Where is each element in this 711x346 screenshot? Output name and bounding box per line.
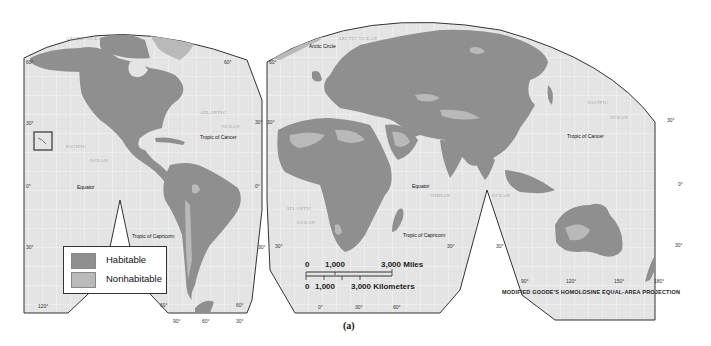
deg-30s-west: 30°	[26, 244, 34, 250]
label-atlantic-ocean-south-1: ATLANTIC	[286, 206, 312, 211]
deg-lon-120e: 120°	[566, 278, 576, 284]
scale-miles-zero: 0	[305, 260, 309, 269]
label-pacific-ocean-west-1: PACIFIC	[66, 144, 86, 149]
label-equator-west: Equator	[77, 184, 95, 190]
label-tropic-cancer-west: Tropic of Cancer	[200, 134, 237, 140]
label-indian-ocean-1: INDIAN	[431, 193, 450, 198]
label-tropic-capricorn-east: Tropic of Capricorn	[403, 232, 445, 238]
scale-km-mid: 1,000	[315, 282, 335, 291]
deg-lon-120w: 120°	[38, 303, 48, 309]
deg-30s-africa-right: 30°	[447, 243, 455, 249]
deg-lon-0: 0°	[318, 304, 323, 310]
deg-60s-west: 60°	[160, 302, 168, 308]
deg-0-west: 0°	[26, 183, 31, 189]
label-atlantic-ocean-south-2: OCEAN	[297, 220, 315, 225]
deg-lon-30w: 30°	[236, 318, 244, 324]
label-atlantic-ocean-north-2: OCEAN	[222, 124, 240, 129]
deg-60n-west-right: 60°	[224, 59, 232, 65]
deg-lon-150e: 150°	[614, 278, 624, 284]
scale-miles-mid: 1,000	[325, 260, 345, 269]
deg-lon-60e: 60°	[393, 304, 401, 310]
label-pacific-ocean-east-2: OCEAN	[610, 115, 628, 120]
deg-lon-60w: 60°	[202, 318, 210, 324]
deg-30s-australia-left: 30°	[496, 243, 504, 249]
deg-30n-west-right: 30°	[255, 119, 263, 125]
deg-0-mid: 0°	[255, 183, 260, 189]
label-arctic-ocean-west: ARCTIC OCEAN	[66, 36, 105, 41]
deg-lon-90w: 90°	[173, 318, 181, 324]
scale-km-zero: 0	[305, 282, 309, 291]
deg-60s-east: 60°	[236, 302, 244, 308]
deg-0-east: 0°	[678, 181, 683, 187]
label-pacific-ocean-west-2: OCEAN	[90, 158, 108, 163]
label-atlantic-ocean-north-1: ATLANTIC	[200, 110, 226, 115]
deg-30n-west: 30°	[26, 120, 34, 126]
legend: Habitable Nonhabitable	[63, 246, 167, 294]
east-lobe	[267, 22, 657, 320]
label-tropic-cancer-east: Tropic of Cancer	[567, 133, 604, 139]
legend-label-habitable: Habitable	[106, 254, 146, 265]
label-equator-east: Equator	[412, 183, 430, 189]
deg-60n-west: 60°	[26, 59, 34, 65]
projection-label: MODIFIED GOODE'S HOMOLOSINE EQUAL-AREA P…	[502, 289, 680, 295]
deg-lon-30e: 30°	[355, 304, 363, 310]
deg-30n-east: 30°	[667, 117, 675, 123]
legend-label-nonhabitable: Nonhabitable	[106, 273, 162, 284]
deg-lon-180: 180°	[654, 278, 664, 284]
deg-30s-east-left: 30°	[275, 243, 283, 249]
scale-km-max: 3,000 Kilometers	[351, 282, 415, 291]
label-arctic-ocean-east: ARCTIC OCEAN	[338, 36, 377, 41]
figure-caption: (a)	[343, 320, 355, 331]
deg-lon-90e: 90°	[521, 278, 529, 284]
deg-60n-east-left: 60°	[269, 59, 277, 65]
label-pacific-ocean-east-1: PACIFIC	[588, 100, 608, 105]
legend-swatch-habitable	[71, 253, 96, 269]
label-indian-ocean-2: OCEAN	[492, 193, 510, 198]
legend-swatch-nonhabitable	[71, 272, 96, 288]
deg-30s-east: 30°	[675, 242, 683, 248]
scale-miles-max: 3,000 Miles	[381, 260, 423, 269]
deg-30n-east-left: 30°	[267, 119, 275, 125]
deg-30s-west-right: 30°	[258, 244, 266, 250]
label-arctic-circle: Arctic Circle	[309, 43, 336, 49]
label-tropic-capricorn-west: Tropic of Capricorn	[132, 233, 174, 239]
